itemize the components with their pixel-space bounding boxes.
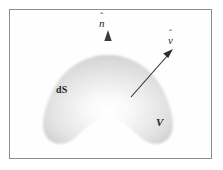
n-hat-accent: ˆ — [99, 12, 105, 21]
surface-element-label: dS — [56, 85, 68, 95]
normal-arrow-head — [104, 30, 111, 41]
volume-label: V — [156, 117, 163, 128]
v-hat-accent: ˆ — [168, 29, 173, 38]
figure-canvas — [0, 0, 223, 170]
velocity-arrow-head — [163, 49, 173, 58]
velocity-vector-label: ˆ v — [168, 35, 173, 46]
figure-root: ˆ n ˆ v dS V — [0, 0, 223, 170]
normal-vector-label: ˆ n — [99, 18, 105, 29]
